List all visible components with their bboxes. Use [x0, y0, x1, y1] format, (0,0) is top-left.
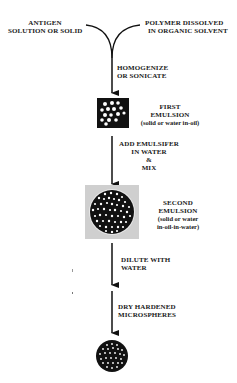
- step-add-emulsifier: ADD EMULSIFER IN WATER & MIX: [115, 140, 183, 172]
- step-homogenize-line2: OR SONICATE: [117, 72, 168, 80]
- step-add-emulsifier-line3: &: [115, 156, 183, 164]
- second-emulsion-label: SECOND EMULSION (solid or water in-oil-i…: [145, 199, 211, 231]
- first-emulsion-image: [97, 98, 129, 128]
- input-polymer-line1: POLYMER DISSOLVED: [145, 19, 228, 27]
- step-homogenize: HOMOGENIZE OR SONICATE: [117, 64, 168, 80]
- input-antigen-line2: SOLUTION OR SOLID: [8, 27, 82, 35]
- left-input-curve: [86, 25, 112, 58]
- first-emulsion-title2: EMULSION: [132, 111, 208, 119]
- step-dilute-line1: DILUTE WITH: [121, 256, 170, 264]
- second-emulsion-note2: in-oil-in-water): [145, 223, 211, 231]
- input-antigen-line1: ANTIGEN: [8, 19, 82, 27]
- step-add-emulsifier-line2: IN WATER: [115, 148, 183, 156]
- second-emulsion-title2: EMULSION: [145, 207, 211, 215]
- input-antigen: ANTIGEN SOLUTION OR SOLID: [8, 19, 82, 35]
- first-emulsion-note: (solid or water in-oil): [132, 119, 208, 127]
- step-add-emulsifier-line4: MIX: [115, 164, 183, 172]
- step-dilute: DILUTE WITH WATER: [121, 256, 170, 272]
- step-dilute-line2: WATER: [121, 264, 170, 272]
- second-emulsion-image: [85, 185, 139, 239]
- microsphere-image: [95, 339, 129, 373]
- step-dry-line1: DRY HARDENED: [118, 303, 176, 311]
- step-homogenize-line1: HOMOGENIZE: [117, 64, 168, 72]
- input-polymer-line2: IN ORGANIC SOLVENT: [145, 27, 228, 35]
- step-dry: DRY HARDENED MICROSPHERES: [118, 303, 176, 319]
- second-emulsion-title1: SECOND: [145, 199, 211, 207]
- input-polymer: POLYMER DISSOLVED IN ORGANIC SOLVENT: [145, 19, 228, 35]
- second-emulsion-note1: (solid or water: [145, 215, 211, 223]
- first-emulsion-title1: FIRST: [132, 103, 208, 111]
- right-input-curve: [112, 25, 140, 58]
- step-add-emulsifier-line1: ADD EMULSIFER: [115, 140, 183, 148]
- step-dry-line2: MICROSPHERES: [118, 311, 176, 319]
- first-emulsion-label: FIRST EMULSION (solid or water in-oil): [132, 103, 208, 127]
